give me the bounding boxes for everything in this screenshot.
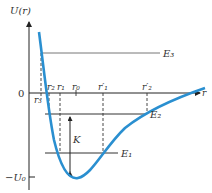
e2-label: E₂ (149, 109, 161, 120)
e1-label: E₁ (120, 148, 132, 159)
y-axis-label: U(r) (10, 5, 31, 16)
r3-label: r₃ (34, 95, 42, 105)
r1-prime-label: r′₁ (98, 82, 108, 92)
potential-energy-diagram: U(r) r 0 −U₀ E₃ E₂ E₁ r₃ r₂ r₁ r₀ r′₁ r′… (0, 0, 212, 193)
e3-label: E₃ (162, 48, 174, 59)
r0-label: r₀ (72, 82, 80, 92)
r1-label: r₁ (57, 82, 65, 92)
kinetic-label: K (72, 134, 81, 145)
r2-label: r₂ (47, 82, 55, 92)
zero-label: 0 (18, 88, 24, 99)
x-axis-label: r (202, 88, 207, 98)
r2-prime-label: r′₂ (142, 82, 152, 92)
min-label: −U₀ (5, 172, 26, 183)
